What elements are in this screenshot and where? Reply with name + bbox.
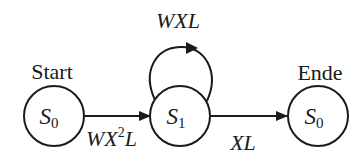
edge-s1-self-loop: WXL [150, 8, 212, 101]
loop-arrowhead-icon [186, 42, 198, 54]
loop-arc [150, 47, 212, 101]
node-s1-label: S1 [167, 104, 186, 131]
edge-start-to-s1-label: WX2L [86, 125, 137, 151]
node-end-label: S0 [305, 104, 324, 131]
diagram-svg: Start S0 S1 Ende S0 WX2L WXL [0, 0, 363, 157]
node-start: Start S0 [24, 59, 84, 146]
node-end: Ende S0 [288, 60, 348, 146]
node-end-caption: Ende [297, 60, 342, 85]
edge-start-to-s1: WX2L [84, 116, 150, 151]
state-diagram: Start S0 S1 Ende S0 WX2L WXL [0, 0, 363, 157]
edge-s1-to-end-label: XL [229, 130, 256, 155]
node-s1: S1 [150, 86, 210, 146]
edge-s1-to-end: XL [211, 116, 287, 155]
node-start-label: S0 [40, 104, 59, 131]
edge-s1-self-loop-label: WXL [156, 8, 200, 33]
node-start-caption: Start [31, 59, 73, 84]
